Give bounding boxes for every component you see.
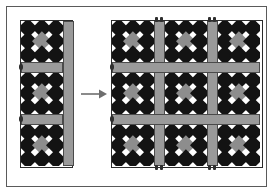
sashing-pin-icon [110,116,114,122]
sashing-pin-icon [213,165,216,170]
dark-diamond-icon [46,45,63,62]
sashing-pin-icon [208,165,211,170]
quilt-block [165,125,207,166]
sashing-pin-icon [160,165,163,170]
dark-diamond-icon [190,149,207,166]
dark-diamond-icon [46,149,63,166]
diamond-cell [49,100,63,114]
process-arrow [80,86,108,102]
diamond-cell [246,48,260,62]
diamond-cell [246,152,260,166]
vertical-sashing-strip [63,21,74,166]
sashing-pin-icon [208,17,211,22]
dark-diamond-icon [243,149,260,166]
dark-diamond-icon [190,45,207,62]
sashing-pin-icon [110,64,114,70]
diamond-cell [246,100,260,114]
quilt-block [21,73,63,114]
sashing-pin-icon [160,17,163,22]
dark-diamond-icon [243,97,260,114]
quilt-block [21,21,63,62]
diamond-cell [140,152,154,166]
quilt-block [165,73,207,114]
sashing-pin-icon [19,116,23,122]
quilt-block [112,21,154,62]
dark-diamond-icon [46,97,63,114]
quilt-block [218,73,260,114]
dark-diamond-icon [137,45,154,62]
quilt-block [165,21,207,62]
quilt-block [112,125,154,166]
quilt-block [218,21,260,62]
vertical-sashing-strip [207,21,218,166]
dark-diamond-icon [137,97,154,114]
sashing-pin-icon [213,17,216,22]
horizontal-sashing-strip [21,62,63,73]
dark-diamond-icon [243,45,260,62]
diamond-cell [140,100,154,114]
diamond-cell [193,100,207,114]
dark-diamond-icon [190,97,207,114]
sashing-pin-icon [19,64,23,70]
diamond-cell [49,152,63,166]
horizontal-sashing-strip [112,62,260,73]
diamond-cell [49,48,63,62]
sashing-pin-icon [155,165,158,170]
figure-canvas: Quilt sashing assembly diagram Left: a s… [0,0,273,193]
dark-diamond-icon [137,149,154,166]
quilt-block [218,125,260,166]
quilt-block [21,125,63,166]
diamond-cell [193,48,207,62]
sashing-pin-icon [155,17,158,22]
vertical-sashing-strip [154,21,165,166]
quilt-block [112,73,154,114]
diamond-cell [193,152,207,166]
diamond-cell [140,48,154,62]
horizontal-sashing-strip [21,114,63,125]
horizontal-sashing-strip [112,114,260,125]
